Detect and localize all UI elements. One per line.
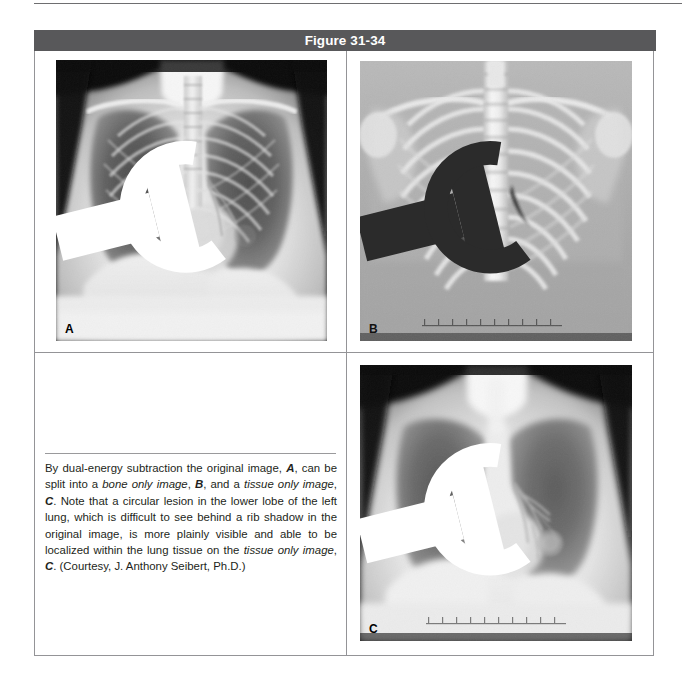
panel-b-cell: B	[347, 51, 653, 353]
panel-a-cell: A	[35, 51, 347, 353]
caption-seg-6: , and a	[203, 478, 244, 490]
radiograph-a-image[interactable]: A	[56, 60, 327, 341]
figure-header-bar: Figure 31-34	[34, 30, 656, 51]
radiograph-b-svg	[360, 61, 632, 341]
page-top-rule	[34, 3, 682, 4]
figure-title: Figure 31-34	[305, 34, 386, 48]
caption-seg-0: By dual-energy subtraction the original …	[45, 462, 286, 474]
figure-caption: By dual-energy subtraction the original …	[45, 460, 337, 575]
caption-seg-11: tissue only image	[244, 544, 334, 556]
caption-cell: By dual-energy subtraction the original …	[35, 353, 347, 655]
figure-page: Figure 31-34	[0, 0, 684, 673]
radiograph-c-svg	[360, 365, 632, 641]
caption-seg-7: tissue only image	[244, 478, 334, 490]
caption-seg-3: bone only image	[102, 478, 187, 490]
caption-seg-8: ,	[334, 478, 337, 490]
figure-container: Figure 31-34	[34, 30, 656, 658]
figure-grid: A	[34, 51, 654, 656]
radiograph-c-image[interactable]: C	[360, 365, 632, 641]
caption-seg-12: ,	[334, 544, 337, 556]
caption-seg-13: C	[45, 560, 53, 572]
caption-top-rule	[45, 453, 336, 454]
caption-seg-14: . (Courtesy, J. Anthony Seibert, Ph.D.)	[53, 560, 245, 572]
caption-seg-9: C	[45, 495, 53, 507]
panel-c-cell: C	[347, 353, 653, 655]
radiograph-a-svg	[56, 60, 327, 341]
radiograph-b-image[interactable]: B	[360, 61, 632, 341]
caption-seg-5: B	[195, 478, 203, 490]
caption-seg-4: ,	[188, 478, 195, 490]
